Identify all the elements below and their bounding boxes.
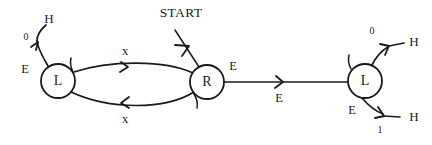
left-output-input-label: E bbox=[21, 62, 29, 76]
right-down-output-edge-group bbox=[362, 98, 400, 118]
left-output-arc bbox=[37, 41, 48, 66]
link-edge-label: E bbox=[275, 91, 283, 105]
right-up-output-edge-group bbox=[372, 43, 404, 65]
left-output-edge-group bbox=[31, 25, 48, 66]
right-up-terminal-label: H bbox=[409, 34, 418, 49]
left-output-digit-label: 0 bbox=[24, 31, 29, 42]
right-up-digit-label: 0 bbox=[370, 25, 375, 36]
node-left-l-label: L bbox=[54, 73, 63, 88]
right-up-arc bbox=[372, 47, 388, 65]
center-output-input-label: E bbox=[229, 59, 237, 73]
bottom-arc-path bbox=[71, 92, 194, 106]
diagram-canvas: 0 H E L x x START R bbox=[0, 0, 432, 145]
right-up-arc-tail bbox=[389, 43, 404, 46]
top-arc-path bbox=[74, 63, 193, 73]
start-arrowhead-icon bbox=[175, 45, 189, 56]
left-output-arrowhead-icon bbox=[31, 42, 38, 50]
node-center-r-label: R bbox=[202, 74, 212, 89]
state-diagram-svg: 0 H E L x x START R bbox=[0, 0, 432, 145]
top-arc-label: x bbox=[122, 44, 129, 58]
right-down-arc-tail bbox=[384, 116, 400, 117]
right-down-input-label: E bbox=[348, 103, 356, 117]
link-edge-group bbox=[224, 76, 348, 88]
bottom-arc-edge-group bbox=[71, 92, 194, 108]
top-arc-edge-group bbox=[74, 62, 193, 73]
start-label: START bbox=[160, 5, 203, 20]
start-edge-group bbox=[175, 30, 199, 67]
node-right-l-label: L bbox=[361, 73, 370, 88]
left-output-arc-tail bbox=[37, 25, 46, 41]
right-down-terminal-label: H bbox=[409, 109, 418, 124]
bottom-arc-label: x bbox=[122, 112, 129, 126]
left-output-terminal-label: H bbox=[44, 11, 53, 26]
bottom-arc-arrowhead-icon bbox=[121, 97, 129, 108]
right-down-arc bbox=[362, 98, 383, 114]
right-down-digit-label: 1 bbox=[378, 124, 383, 135]
right-open-paren-mark bbox=[348, 55, 351, 69]
